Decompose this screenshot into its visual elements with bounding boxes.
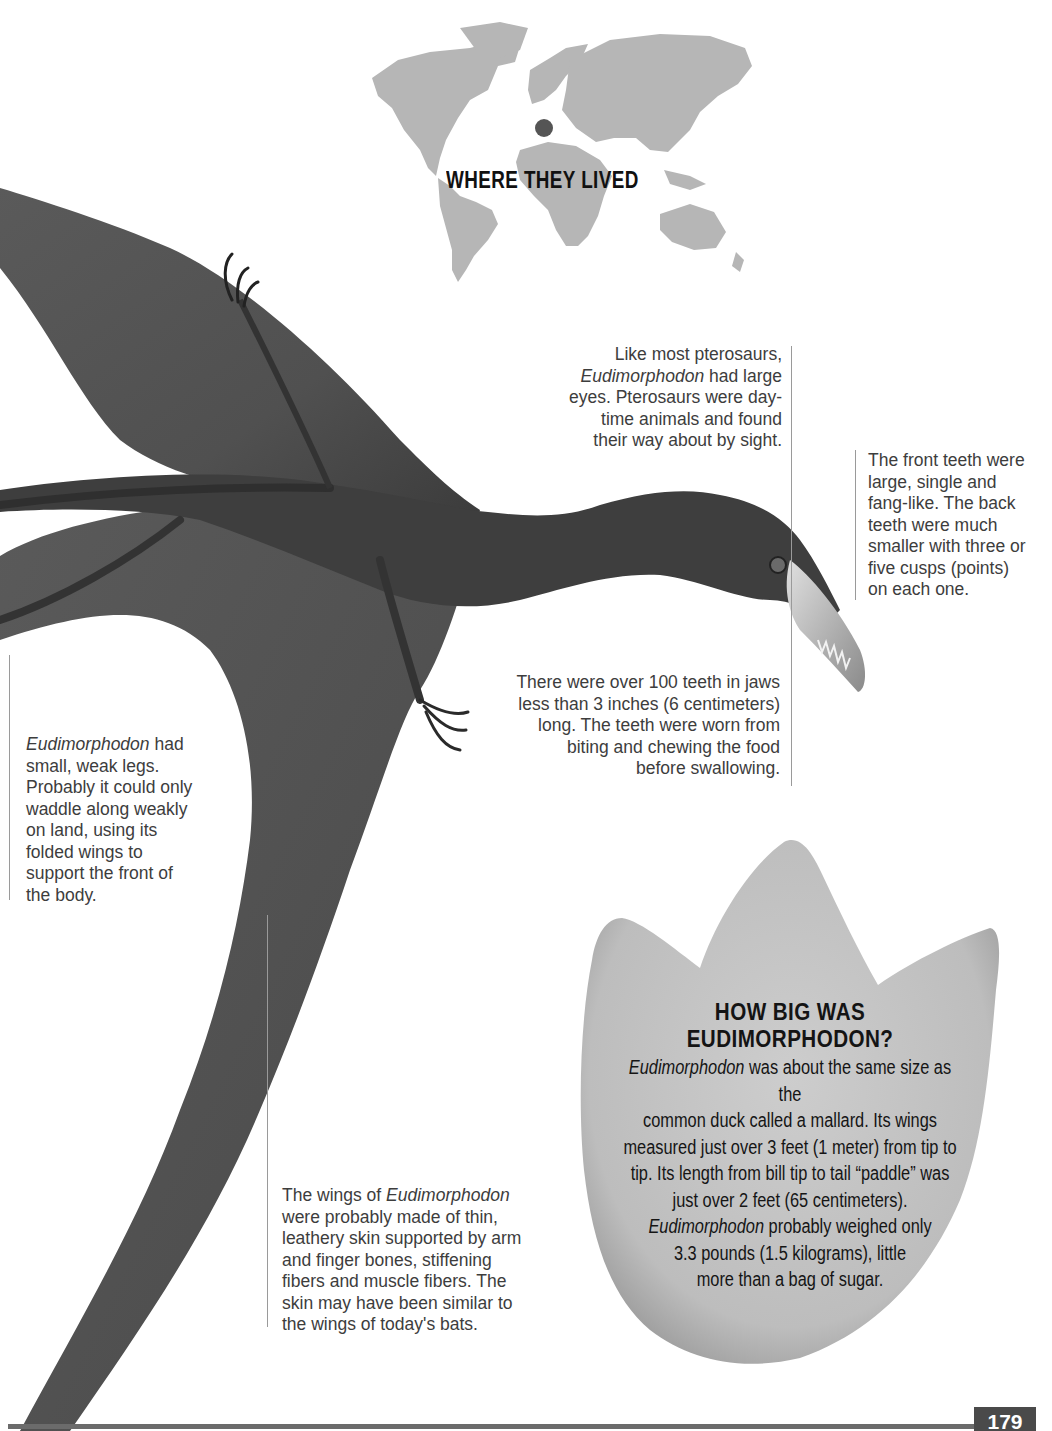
caption-line: waddle along weakly [26, 799, 236, 821]
caption-line: The front teeth were [868, 450, 1052, 472]
caption-line: large, single and [868, 472, 1052, 494]
caption-line: before swallowing. [470, 758, 780, 780]
body-line: Eudimorphodon probably weighed only [622, 1213, 958, 1240]
caption-line: were probably made of thin, [282, 1207, 562, 1229]
caption-line: small, weak legs. [26, 756, 236, 778]
title-line: HOW BIG WAS [627, 998, 954, 1025]
body-text: was about the same size as the [744, 1056, 951, 1105]
caption-line: the wings of today's bats. [282, 1314, 562, 1336]
caption-line: Probably it could only [26, 777, 236, 799]
caption-line: time animals and found [520, 409, 782, 431]
caption-front-teeth: The front teeth were large, single and f… [868, 450, 1052, 601]
caption-line: five cusps (points) [868, 558, 1052, 580]
caption-line: teeth were much [868, 515, 1052, 537]
species-name: Eudimorphodon [581, 366, 705, 386]
caption-line: the body. [26, 885, 236, 907]
caption-text: had large [704, 366, 782, 386]
leader-line-eyes [791, 346, 792, 786]
pterosaur-beak [787, 560, 865, 692]
species-name: Eudimorphodon [386, 1185, 510, 1205]
body-text: probably weighed only [764, 1215, 932, 1237]
leader-line-wings [267, 915, 268, 1327]
size-box-body: Eudimorphodon was about the same size as… [622, 1054, 958, 1293]
caption-line: Like most pterosaurs, [520, 344, 782, 366]
location-marker-icon [535, 119, 553, 137]
caption-line: on land, using its [26, 820, 236, 842]
body-line: 3.3 pounds (1.5 kilograms), little [622, 1240, 958, 1267]
species-name: Eudimorphodon [648, 1215, 764, 1237]
body-line: more than a bag of sugar. [622, 1266, 958, 1293]
page-number: 179 [974, 1410, 1036, 1431]
caption-line: skin may have been similar to [282, 1293, 562, 1315]
caption-line: their way about by sight. [520, 430, 782, 452]
caption-line: and finger bones, stiffening [282, 1250, 562, 1272]
body-line: tip. Its length from bill tip to tail “p… [622, 1160, 958, 1187]
caption-line: smaller with three or [868, 536, 1052, 558]
caption-wings: The wings of Eudimorphodon were probably… [282, 1185, 562, 1336]
body-line: measured just over 3 feet (1 meter) from… [622, 1134, 958, 1161]
caption-line: eyes. Pterosaurs were day- [520, 387, 782, 409]
leader-line-legs [9, 655, 10, 900]
caption-text: The wings of [282, 1185, 386, 1205]
body-line: just over 2 feet (65 centimeters). [622, 1187, 958, 1214]
title-line: EUDIMORPHODON? [627, 1025, 954, 1052]
caption-line: biting and chewing the food [470, 737, 780, 759]
caption-line: fang-like. The back [868, 493, 1052, 515]
body-line: common duck called a mallard. Its wings [622, 1107, 958, 1134]
caption-line: leathery skin supported by arm [282, 1228, 562, 1250]
caption-text: had [150, 734, 184, 754]
size-box-title: HOW BIG WAS EUDIMORPHODON? [627, 998, 954, 1052]
caption-eyes: Like most pterosaurs, Eudimorphodon had … [520, 344, 782, 452]
eye-icon [770, 557, 786, 573]
body-line: Eudimorphodon was about the same size as… [622, 1054, 958, 1107]
map-title: WHERE THEY LIVED [446, 167, 626, 194]
caption-line: long. The teeth were worn from [470, 715, 780, 737]
leader-line-front-teeth [855, 450, 856, 600]
caption-line: less than 3 inches (6 centimeters) [470, 694, 780, 716]
caption-line: There were over 100 teeth in jaws [470, 672, 780, 694]
caption-line: folded wings to [26, 842, 236, 864]
caption-line: on each one. [868, 579, 1052, 601]
caption-line: support the front of [26, 863, 236, 885]
caption-legs: Eudimorphodon had small, weak legs. Prob… [26, 734, 236, 906]
foot-claws-icon [420, 700, 468, 750]
species-name: Eudimorphodon [629, 1056, 745, 1078]
species-name: Eudimorphodon [26, 734, 150, 754]
caption-line: fibers and muscle fibers. The [282, 1271, 562, 1293]
caption-line: Eudimorphodon had large [520, 366, 782, 388]
world-map [372, 22, 752, 282]
caption-line: Eudimorphodon had [26, 734, 236, 756]
caption-line: The wings of Eudimorphodon [282, 1185, 562, 1207]
caption-jaws: There were over 100 teeth in jaws less t… [470, 672, 780, 780]
footer-rule [8, 1424, 974, 1429]
